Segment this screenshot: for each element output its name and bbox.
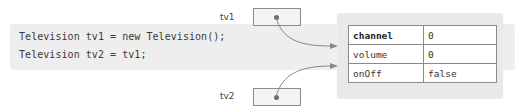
tv2-label: tv2 [220,91,235,101]
field-name: onOff [349,64,424,83]
code-line-2: Television tv2 = tv1; [19,49,146,60]
field-value: false [424,64,497,83]
object-fields-table: channel 0 volume 0 onOff false [348,25,497,83]
field-value: 0 [424,26,497,45]
pointer-dot-icon [274,15,279,20]
field-value: 0 [424,45,497,64]
tv2-reference-box [253,88,301,106]
reference-diagram: Television tv1 = new Television(); Telev… [0,0,523,112]
field-name: channel [349,26,424,45]
field-row: volume 0 [349,45,497,64]
field-row: channel 0 [349,26,497,45]
pointer-dot-icon [274,95,279,100]
field-name: volume [349,45,424,64]
tv1-label: tv1 [220,12,235,22]
tv1-reference-box [253,8,301,26]
field-row: onOff false [349,64,497,83]
code-line-1: Television tv1 = new Television(); [19,31,225,42]
